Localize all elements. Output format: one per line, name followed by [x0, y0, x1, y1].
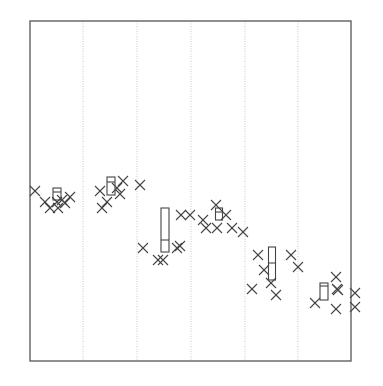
x-marker	[331, 304, 341, 314]
x-marker	[118, 176, 128, 186]
x-marker	[95, 186, 105, 196]
scatter-box-chart	[0, 0, 383, 386]
plot-frame	[30, 21, 351, 361]
x-marker	[247, 284, 257, 294]
x-marker	[176, 210, 186, 220]
x-marker	[65, 192, 75, 202]
x-marker	[238, 227, 248, 237]
x-marker	[253, 250, 263, 260]
x-marker	[175, 241, 185, 251]
x-marker	[158, 255, 168, 265]
x-marker	[172, 243, 182, 253]
x-marker	[227, 223, 237, 233]
x-marker	[135, 180, 145, 190]
x-marker	[30, 186, 40, 196]
x-marker	[271, 290, 281, 300]
x-marker	[310, 298, 320, 308]
x-marker	[259, 265, 269, 275]
x-marker	[331, 272, 341, 282]
x-marker	[185, 210, 195, 220]
x-marker	[153, 255, 163, 265]
x-marker	[40, 197, 50, 207]
x-marker	[97, 203, 107, 213]
box-markers	[53, 177, 328, 300]
x-marker	[286, 250, 296, 260]
x-marker	[201, 223, 211, 233]
x-marker	[212, 223, 222, 233]
x-marker	[45, 203, 55, 213]
data-points	[30, 176, 360, 314]
x-marker	[138, 243, 148, 253]
box-marker	[107, 177, 115, 195]
x-marker	[60, 198, 70, 208]
x-marker	[333, 285, 343, 295]
x-marker	[198, 215, 208, 225]
x-marker	[102, 197, 112, 207]
box-marker	[161, 208, 169, 252]
